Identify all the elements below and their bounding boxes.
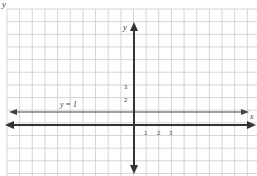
- line-label: y = 1: [59, 100, 77, 109]
- y-axis: [130, 22, 138, 174]
- coordinate-plane: y y x y = 1 1 2 3 2 3: [0, 0, 257, 176]
- x-axis-left-arrow-icon: [5, 121, 14, 129]
- x-axis: [5, 121, 256, 129]
- y-axis-up-arrow-icon: [130, 22, 138, 31]
- x-axis-label: x: [249, 112, 254, 121]
- header-fragment: y: [1, 0, 6, 9]
- y-axis-down-arrow-icon: [130, 165, 138, 174]
- grid-lines: [7, 9, 257, 176]
- x-axis-right-arrow-icon: [247, 121, 256, 129]
- y-axis-label: y: [122, 22, 127, 32]
